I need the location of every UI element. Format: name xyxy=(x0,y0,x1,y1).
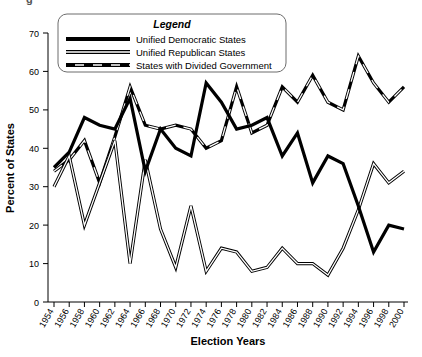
x-tick-label-1980: 1980 xyxy=(235,307,254,329)
legend-title: Legend xyxy=(153,18,191,30)
x-tick-label-1962: 1962 xyxy=(98,307,117,329)
x-tick-label-1974: 1974 xyxy=(189,307,208,329)
y-tick-label-50: 50 xyxy=(29,105,39,115)
y-tick-label-20: 20 xyxy=(29,221,39,231)
x-tick-label-1956: 1956 xyxy=(52,307,71,329)
x-tick-label-1966: 1966 xyxy=(128,307,147,329)
x-tick-label-1994: 1994 xyxy=(341,307,360,329)
y-tick-label-10: 10 xyxy=(29,259,39,269)
legend-label-0: Unified Democratic States xyxy=(136,34,246,45)
x-tick-label-1988: 1988 xyxy=(296,307,315,329)
legend-label-2: States with Divided Government xyxy=(136,60,272,71)
x-tick-label-1978: 1978 xyxy=(220,307,239,329)
x-tick-label-1970: 1970 xyxy=(159,307,178,329)
x-tick-label-1984: 1984 xyxy=(265,307,284,329)
legend-label-1: Unified Republican States xyxy=(136,47,246,58)
x-tick-label-1958: 1958 xyxy=(67,307,86,329)
x-tick-label-1954: 1954 xyxy=(37,307,56,329)
y-tick-label-70: 70 xyxy=(29,29,39,39)
x-tick-label-1992: 1992 xyxy=(326,307,345,329)
x-tick-label-1998: 1998 xyxy=(372,307,391,329)
x-tick-label-1990: 1990 xyxy=(311,307,330,329)
y-tick-label-40: 40 xyxy=(29,144,39,154)
legend: Legend Unified Democratic States Unified… xyxy=(58,14,286,72)
x-axis-ticks xyxy=(54,302,404,307)
x-tick-label-1996: 1996 xyxy=(357,307,376,329)
x-tick-label-1960: 1960 xyxy=(83,307,102,329)
series-unified-republican xyxy=(54,141,404,276)
x-tick-label-1976: 1976 xyxy=(204,307,223,329)
figure-container: g 0 10 20 30 40 50 60 70 xyxy=(0,0,422,357)
x-tick-label-1964: 1964 xyxy=(113,307,132,329)
caption-stub: g xyxy=(26,0,33,5)
x-tick-label-1986: 1986 xyxy=(281,307,300,329)
y-axis: 0 10 20 30 40 50 60 70 xyxy=(29,29,48,308)
x-tick-label-1968: 1968 xyxy=(144,307,163,329)
y-tick-label-60: 60 xyxy=(29,67,39,77)
x-tick-label-1972: 1972 xyxy=(174,307,193,329)
y-axis-title: Percent of States xyxy=(4,123,16,213)
y-tick-label-0: 0 xyxy=(34,298,39,308)
x-tick-label-1982: 1982 xyxy=(250,307,269,329)
x-tick-label-2000: 2000 xyxy=(387,307,406,329)
y-tick-label-30: 30 xyxy=(29,182,39,192)
line-chart: 0 10 20 30 40 50 60 70 19541956195819601… xyxy=(0,0,422,357)
x-axis-title: Election Years xyxy=(190,335,265,347)
x-axis-labels: 1954195619581960196219641966196819701972… xyxy=(37,307,406,329)
